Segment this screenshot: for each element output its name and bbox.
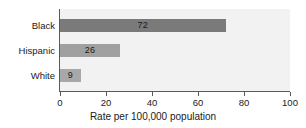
y-axis-line [59, 9, 60, 92]
category-label-black: Black [1, 19, 55, 32]
x-axis-title: Rate per 100,000 population [0, 111, 306, 122]
bar-hispanic: 26 [60, 44, 120, 57]
x-tick-mark [290, 92, 291, 96]
bar-value-white: 9 [60, 69, 81, 82]
bar-value-hispanic: 26 [60, 44, 120, 57]
x-tick-label: 80 [224, 97, 264, 108]
bar-chart: 72 26 9 Black Hispanic White 02040608010… [0, 0, 306, 128]
category-label-hispanic: Hispanic [1, 44, 55, 57]
x-tick-label: 40 [132, 97, 172, 108]
x-tick-mark [244, 92, 245, 96]
x-tick-label: 0 [40, 97, 80, 108]
x-tick-mark [106, 92, 107, 96]
x-tick-mark [198, 92, 199, 96]
x-tick-label: 60 [178, 97, 218, 108]
x-tick-label: 20 [86, 97, 126, 108]
x-tick-mark [152, 92, 153, 96]
category-label-white: White [1, 69, 55, 82]
bar-white: 9 [60, 69, 81, 82]
bar-black: 72 [60, 19, 226, 32]
x-tick-mark [60, 92, 61, 96]
bar-value-black: 72 [60, 19, 226, 32]
x-tick-label: 100 [270, 97, 306, 108]
x-axis-line [59, 91, 290, 92]
